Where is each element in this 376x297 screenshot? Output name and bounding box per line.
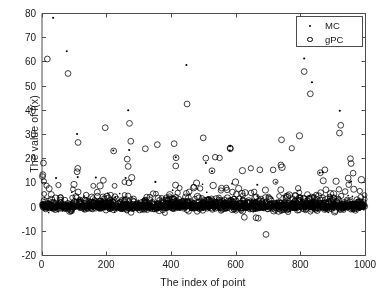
y-tick-label: 60 [8,56,36,67]
x-tick-label: 400 [163,259,180,270]
x-tick-label: 800 [292,259,309,270]
legend-label-gpc: gPC [323,34,343,45]
y-tick-label: 0 [8,201,36,212]
dot-marker-icon [297,18,323,33]
x-tick-label: 200 [98,259,115,270]
y-tick-label: 70 [8,32,36,43]
legend-label-mc: MC [323,20,340,31]
y-tick-label: 40 [8,104,36,115]
y-tick-label: -20 [8,250,36,261]
scatter-plot-figure: The value of f(x) The index of point -20… [0,0,376,297]
y-tick-label: -10 [8,225,36,236]
x-tick-label: 1000 [354,259,376,270]
legend: MC gPC [296,16,363,47]
y-tick-label: 80 [8,8,36,19]
y-tick-label: 50 [8,80,36,91]
y-tick-label: 20 [8,153,36,164]
open-circle-marker-icon [297,32,323,47]
x-axis-label: The index of point [41,276,365,288]
x-tick-label: 600 [227,259,244,270]
y-tick-label: 10 [8,177,36,188]
y-tick-label: 30 [8,129,36,140]
legend-entry-mc: MC [297,18,362,33]
legend-entry-gpc: gPC [297,32,362,47]
x-tick-label: 0 [39,259,45,270]
